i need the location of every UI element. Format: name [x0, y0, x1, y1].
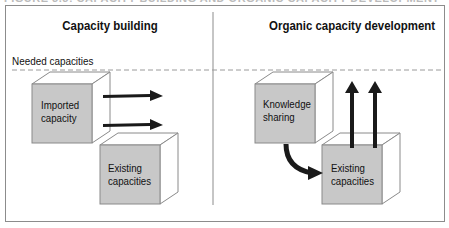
cube-label-line: sharing: [263, 111, 311, 124]
cube-label-line: Existing: [331, 162, 374, 175]
left-panel-title: Capacity building: [62, 18, 159, 33]
cube-label-line: capacities: [108, 175, 151, 188]
cube-label-existing-left: Existing capacities: [108, 162, 151, 188]
cube-label-imported: Imported capacity: [41, 99, 79, 125]
cube-label-line: Existing: [108, 162, 151, 175]
arrow-right-upper: [103, 90, 163, 101]
cube-label-line: Knowledge: [263, 98, 311, 111]
cube-label-knowledge: Knowledge sharing: [263, 98, 311, 124]
arrow-right-lower: [103, 119, 163, 130]
cube-label-line: capacities: [331, 175, 374, 188]
needed-capacities-label: Needed capacities: [12, 55, 93, 67]
arrow-curved-knowledge-to-existing: [286, 144, 323, 180]
cube-label-line: Imported: [41, 99, 79, 112]
cube-label-line: capacity: [41, 112, 79, 125]
right-panel-title: Organic capacity development: [269, 18, 432, 33]
cube-label-existing-right: Existing capacities: [331, 162, 374, 188]
